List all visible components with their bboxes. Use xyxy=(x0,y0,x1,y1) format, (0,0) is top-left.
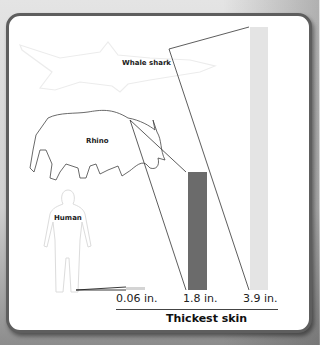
rhino-silhouette xyxy=(30,110,165,180)
label-rhino: Rhino xyxy=(86,137,109,145)
x-axis-line xyxy=(116,309,278,310)
chart-title: Thickest skin xyxy=(166,312,247,325)
human-silhouette xyxy=(44,190,91,292)
label-human: Human xyxy=(54,214,82,222)
whale-shark-silhouette xyxy=(20,42,215,92)
value-whale-shark: 3.9 in. xyxy=(243,292,278,305)
label-whale-shark: Whale shark xyxy=(122,59,171,67)
bar-human xyxy=(126,287,145,290)
value-human: 0.06 in. xyxy=(116,292,158,305)
value-rhino: 1.8 in. xyxy=(183,292,218,305)
bar-rhino xyxy=(188,172,207,290)
bar-whale-shark xyxy=(250,27,268,290)
